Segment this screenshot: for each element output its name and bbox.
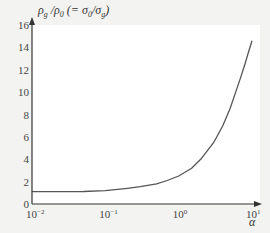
y-tick-label: 4 bbox=[24, 153, 30, 165]
y-tick-label: 14 bbox=[18, 41, 30, 53]
y-axis-arrow-icon bbox=[29, 17, 35, 25]
x-tick-label: 10−2 bbox=[26, 208, 45, 220]
x-axis-label: α bbox=[249, 215, 256, 229]
y-tick-label: 8 bbox=[24, 109, 30, 121]
x-tick-label: 100 bbox=[173, 208, 188, 220]
chart: 0246810121416 10−210−1100101 ρg /ρ0 (= σ… bbox=[0, 0, 270, 233]
y-tick-label: 12 bbox=[18, 64, 29, 76]
x-axis-ticks: 10−210−1100101 bbox=[26, 208, 261, 220]
y-axis-label: ρg /ρ0 (= σ0/σg) bbox=[37, 3, 109, 19]
y-tick-label: 10 bbox=[18, 86, 30, 98]
y-tick-label: 2 bbox=[24, 176, 30, 188]
plot-area bbox=[32, 25, 260, 204]
y-tick-label: 16 bbox=[18, 19, 30, 31]
y-axis-ticks: 0246810121416 bbox=[18, 19, 30, 210]
y-tick-label: 6 bbox=[24, 131, 30, 143]
x-tick-label: 10−1 bbox=[99, 208, 118, 220]
